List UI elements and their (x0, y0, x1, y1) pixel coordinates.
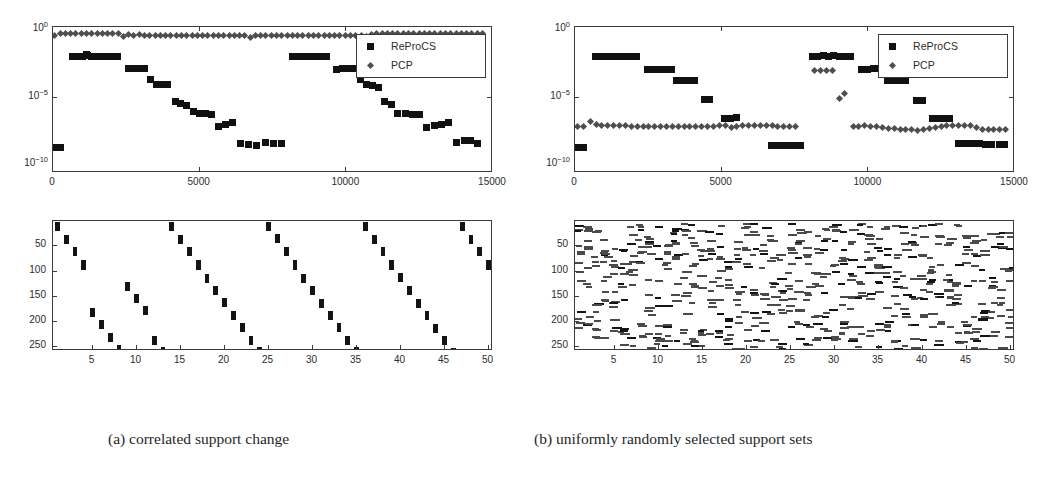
support-block (934, 344, 944, 346)
y-tick-mark (52, 97, 57, 98)
support-block (867, 330, 875, 332)
support-block (708, 253, 716, 255)
legend-a: ReProCS PCP (356, 34, 486, 78)
support-block (674, 283, 682, 285)
support-block (991, 331, 1000, 333)
support-block (955, 332, 962, 334)
support-block (372, 235, 377, 244)
legend-row-pcp: PCP (885, 58, 935, 72)
support-block (874, 247, 882, 249)
support-block (902, 345, 908, 347)
support-block (707, 299, 717, 301)
support-block (841, 249, 847, 251)
legend-b: ReProCS PCP (878, 34, 1008, 78)
x-tick-label: 15 (160, 354, 200, 365)
support-block (585, 228, 594, 230)
y-tick-label: 50 (534, 238, 568, 249)
support-block (691, 245, 700, 247)
x-tick-label: 50 (468, 354, 508, 365)
support-block (741, 311, 749, 313)
x-tick-mark (878, 345, 879, 350)
x-tick-mark (721, 167, 722, 172)
support-block (877, 250, 883, 252)
support-block (706, 333, 714, 335)
y-tick-label: 10−5 (6, 90, 48, 101)
support-block (832, 271, 840, 273)
support-block (689, 265, 697, 267)
support-block (169, 222, 174, 231)
support-block (892, 281, 898, 283)
support-block (786, 310, 793, 312)
support-block (750, 312, 759, 314)
support-block (240, 323, 245, 332)
support-block (645, 241, 654, 243)
support-block (682, 271, 692, 273)
support-block (723, 339, 730, 341)
support-block (1005, 322, 1014, 324)
support-block (926, 291, 934, 293)
support-block (629, 274, 638, 276)
support-block (1005, 232, 1014, 234)
support-block (771, 283, 780, 285)
support-block (718, 225, 724, 227)
support-block (671, 233, 677, 235)
reprocs-data-point (409, 111, 416, 118)
support-block (620, 330, 628, 332)
support-block (964, 331, 970, 333)
support-block (979, 280, 986, 282)
x-tick-label: 25 (248, 354, 288, 365)
support-block (858, 333, 865, 335)
support-block (885, 330, 891, 332)
support-block (875, 323, 884, 325)
support-plot-a-frame (52, 220, 492, 350)
pcp-data-point (1002, 126, 1009, 133)
x-tick-mark (180, 345, 181, 350)
support-block (671, 240, 678, 242)
support-block (768, 240, 778, 242)
support-block (1006, 280, 1014, 282)
support-block (1006, 327, 1014, 329)
reprocs-data-point (164, 81, 171, 88)
support-block (998, 347, 1008, 349)
support-block (117, 345, 122, 350)
x-tick-label: 10000 (317, 176, 373, 187)
support-block (997, 243, 1004, 245)
support-block (972, 331, 981, 333)
support-block (707, 258, 713, 260)
support-block (425, 311, 430, 320)
x-tick-mark (345, 26, 346, 31)
support-block (893, 271, 902, 273)
x-tick-mark (444, 345, 445, 350)
support-block (981, 239, 987, 241)
square-marker-icon (363, 39, 377, 53)
support-block (663, 340, 672, 342)
support-block (952, 285, 959, 287)
reprocs-data-point (847, 53, 854, 60)
support-block (954, 294, 962, 296)
reprocs-data-point (245, 141, 252, 148)
support-block (820, 276, 827, 278)
support-block (715, 330, 722, 332)
figure-container: 10010−510−10 050001000015000 ReProCS PCP… (0, 0, 1044, 484)
reprocs-data-point (902, 77, 909, 84)
support-block (603, 276, 612, 278)
y-tick-label: 10−10 (6, 157, 48, 168)
support-block (612, 291, 618, 293)
support-block (594, 320, 601, 322)
support-block (796, 338, 805, 340)
pcp-data-point (829, 67, 836, 74)
support-block (978, 318, 988, 320)
support-block (788, 263, 797, 265)
support-block (584, 240, 592, 242)
support-block (937, 264, 944, 266)
support-block (301, 274, 306, 283)
support-block (849, 275, 858, 277)
support-block (759, 267, 765, 269)
support-block (944, 244, 952, 246)
support-block (891, 295, 899, 297)
reprocs-data-point (797, 142, 804, 149)
support-block (875, 291, 884, 293)
caption-b: (b) uniformly randomly selected support … (534, 430, 813, 448)
support-block (662, 264, 668, 266)
support-block (638, 226, 644, 228)
